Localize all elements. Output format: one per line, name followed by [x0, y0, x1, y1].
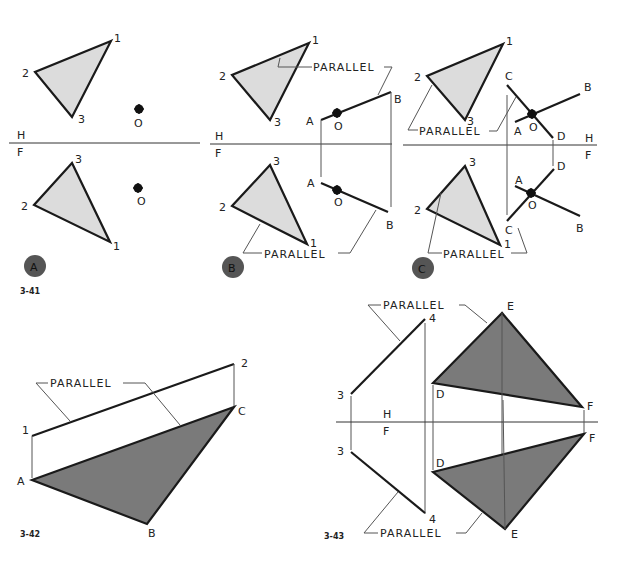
- triangle-def-front: [433, 434, 584, 529]
- h-label: H: [215, 130, 223, 143]
- point-c-label: C: [238, 405, 246, 418]
- panel-a: 1 2 3 O H F 3 2 1 O A 3-41: [9, 32, 200, 296]
- point-3-label: 3: [274, 116, 281, 129]
- point-c-label: C: [505, 224, 513, 237]
- point-1-label: 1: [22, 424, 29, 437]
- badge-b-text: B: [228, 262, 236, 275]
- point-o-label: O: [137, 195, 146, 208]
- triangle-top-view: [427, 44, 503, 120]
- figure-3-42-label: 3-42: [20, 530, 40, 539]
- leader-line: [338, 210, 376, 253]
- point-2-label: 2: [414, 204, 421, 217]
- point-a-label: A: [307, 177, 315, 190]
- point-2-label: 2: [241, 357, 248, 370]
- point-1-label: 1: [113, 240, 120, 253]
- panel-b: 1 2 3 PARALLEL A O B H F 3 2 1 A O B PAR…: [210, 34, 402, 278]
- leader-line: [408, 85, 432, 130]
- f-label: F: [17, 146, 23, 159]
- point-o-label: O: [529, 121, 538, 134]
- point-1-label: 1: [504, 238, 511, 251]
- point-d-label: D: [436, 457, 444, 470]
- point-4-label: 4: [429, 312, 436, 325]
- diagram-canvas: 1 2 3 O H F 3 2 1 O A 3-41 1 2 3 PARALLE…: [0, 0, 623, 563]
- triangle-top-view: [35, 41, 111, 117]
- parallel-label-bottom: PARALLEL: [443, 248, 505, 261]
- parallel-label-bottom: PARALLEL: [264, 248, 326, 261]
- point-3-label: 3: [337, 445, 344, 458]
- point-3-label: 3: [78, 113, 85, 126]
- f-label: F: [585, 149, 591, 162]
- point-a-label: A: [515, 174, 523, 187]
- point-e-label: E: [507, 300, 514, 313]
- point-2-label: 2: [219, 201, 226, 214]
- point-2-label: 2: [22, 67, 29, 80]
- badge-a-text: A: [30, 261, 38, 274]
- point-a-label: A: [306, 115, 314, 128]
- f-label: F: [383, 425, 389, 438]
- parallel-label-bottom: PARALLEL: [380, 527, 442, 540]
- parallel-label-top: PARALLEL: [313, 61, 375, 74]
- f-label: F: [215, 147, 221, 160]
- point-f-label: F: [589, 432, 595, 445]
- leader-line: [456, 513, 482, 533]
- leader-line: [378, 67, 392, 95]
- point-b-label: B: [386, 219, 394, 232]
- point-3-label: 3: [273, 155, 280, 168]
- point-d-label: D: [557, 160, 565, 173]
- point-b-label: B: [148, 527, 156, 540]
- point-a-label: A: [514, 125, 522, 138]
- leader-line: [459, 305, 487, 323]
- figure-3-43: PARALLEL 3 4 E D F H F 3 4 D F E PARALLE…: [324, 299, 598, 541]
- figure-3-42: 1 2 A C B PARALLEL 3-42: [17, 357, 248, 540]
- point-f-label: F: [587, 400, 593, 413]
- point-c-label: C: [505, 70, 513, 83]
- badge-c-text: C: [418, 263, 426, 276]
- point-3-label: 3: [75, 153, 82, 166]
- point-e-label: E: [511, 528, 518, 541]
- line-ab-top: [321, 92, 391, 120]
- h-label: H: [585, 132, 593, 145]
- triangle-def-top: [433, 313, 582, 407]
- point-o-label: O: [528, 199, 537, 212]
- point-o-label: O: [334, 196, 343, 209]
- figure-3-43-label: 3-43: [324, 532, 344, 541]
- line-ab-top: [515, 94, 580, 122]
- leader-line: [123, 383, 180, 425]
- point-1-label: 1: [506, 35, 513, 48]
- point-2-label: 2: [21, 200, 28, 213]
- point-b-label: B: [584, 81, 592, 94]
- point-o-label: O: [134, 117, 143, 130]
- leader-line: [243, 224, 262, 253]
- point-b-label: B: [394, 93, 402, 106]
- point-3-label: 3: [337, 389, 344, 402]
- triangle-front-view: [232, 165, 307, 244]
- h-label: H: [383, 408, 391, 421]
- figure-3-41-label: 3-41: [20, 287, 40, 296]
- point-d-label: D: [436, 388, 444, 401]
- point-d-label: D: [557, 130, 565, 143]
- panel-c: 1 2 3 PARALLEL C B A O D H F 3 2 1 D A O…: [403, 35, 597, 279]
- point-b-label: B: [576, 222, 584, 235]
- point-a-label: A: [17, 475, 25, 488]
- triangle-front-view: [34, 163, 110, 242]
- point-4-label: 4: [429, 513, 436, 526]
- point-2-label: 2: [414, 71, 421, 84]
- point-2-label: 2: [219, 70, 226, 83]
- parallel-label: PARALLEL: [50, 377, 112, 390]
- parallel-label-top: PARALLEL: [419, 125, 481, 138]
- leader-line: [511, 228, 527, 253]
- line-3-4-top: [351, 319, 425, 394]
- parallel-label-top: PARALLEL: [383, 299, 445, 312]
- leader-line: [489, 97, 516, 131]
- h-label: H: [17, 129, 25, 142]
- point-1-label: 1: [312, 34, 319, 47]
- point-o-label: O: [334, 120, 343, 133]
- point-1-label: 1: [114, 32, 121, 45]
- triangle-top-view: [232, 43, 309, 120]
- point-3-label: 3: [469, 156, 476, 169]
- line-ab-front: [321, 183, 388, 212]
